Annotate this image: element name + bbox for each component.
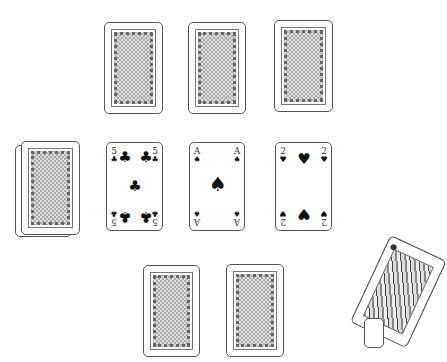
corner-index: A♠ (193, 147, 201, 164)
card-ace-of-spades[interactable]: A♠ A♠ A♠ A♠ ♠ (189, 142, 245, 231)
card-back-pattern (236, 274, 274, 347)
card-back-pattern (114, 32, 153, 104)
card-edge-offscreen (364, 318, 384, 348)
club-pip-icon: ♣ (117, 209, 133, 224)
bottom-card-1[interactable] (143, 265, 200, 357)
corner-index: A♠ (233, 147, 241, 164)
card-back-frame (150, 272, 193, 350)
deck[interactable] (21, 141, 80, 235)
club-pip-icon: ♣ (127, 179, 143, 194)
card-back-pattern (284, 30, 323, 102)
club-pip-icon: ♣ (117, 150, 133, 165)
card-back-frame (28, 148, 73, 228)
club-pip-icon: ♣ (138, 209, 154, 224)
card-back-frame (281, 27, 326, 105)
corner-index: 2♥ (279, 209, 287, 226)
card-back-frame (233, 271, 277, 350)
card-back-frame (111, 29, 156, 107)
card-back-pattern (31, 151, 70, 225)
card-back-frame (195, 29, 239, 107)
corner-index: A♠ (233, 209, 241, 226)
heart-pip-icon: ♥ (296, 152, 312, 167)
top-card-1[interactable] (104, 22, 163, 114)
corner-index: A♠ (193, 209, 201, 226)
corner-index: 2♥ (320, 209, 328, 226)
card-back-pattern (153, 275, 190, 347)
corner-index: 2♥ (279, 147, 287, 164)
club-pip-icon: ♣ (138, 150, 154, 165)
top-card-3[interactable] (274, 20, 333, 112)
top-card-2[interactable] (188, 22, 246, 114)
bottom-card-2[interactable] (226, 264, 284, 357)
corner-index: 2♥ (320, 147, 328, 164)
spade-pip-icon: ♠ (209, 177, 227, 192)
card-two-of-hearts[interactable]: 2♥ 2♥ 2♥ 2♥ ♥ ♥ (275, 142, 332, 231)
card-back-pattern (198, 32, 236, 104)
card-five-of-clubs[interactable]: 5♣ 5♣ 5♣ 5♣ ♣ ♣ ♣ ♣ ♣ (106, 142, 163, 231)
heart-pip-icon: ♥ (296, 206, 312, 221)
